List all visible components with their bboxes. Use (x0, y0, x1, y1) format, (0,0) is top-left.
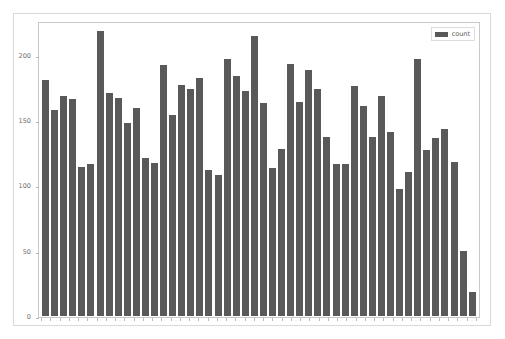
bar (97, 31, 104, 316)
x-axis-tick-mark (161, 318, 162, 321)
bar (305, 70, 312, 316)
bar (233, 76, 240, 316)
y-axis-tick-label: 50 (23, 248, 31, 257)
x-axis-tick-mark (235, 318, 236, 321)
x-axis-tick-mark (383, 318, 384, 321)
y-axis-tick-label: 0 (27, 313, 31, 322)
x-axis-tick-mark (393, 318, 394, 321)
bar (432, 138, 439, 316)
x-axis-tick-mark (420, 318, 421, 321)
bar (42, 80, 49, 317)
bar (278, 149, 285, 316)
x-axis-tick-mark (300, 318, 301, 321)
x-axis-tick-mark (171, 318, 172, 321)
x-axis-tick-mark (41, 318, 42, 321)
bar (78, 167, 85, 316)
legend-swatch-count (435, 32, 448, 37)
x-axis-tick-mark (97, 318, 98, 321)
x-axis-tick-mark (309, 318, 310, 321)
bar (187, 89, 194, 316)
bar (296, 102, 303, 316)
bar (196, 78, 203, 316)
bar (451, 162, 458, 316)
plot-area: 050100150200 count (39, 23, 479, 317)
bar (224, 59, 231, 316)
x-axis-tick-mark (328, 318, 329, 321)
x-axis-tick-mark (78, 318, 79, 321)
bar (160, 65, 167, 316)
bar (378, 96, 385, 316)
bar (251, 36, 258, 316)
bar (369, 137, 376, 316)
y-axis-tick-label: 150 (19, 117, 31, 126)
x-axis-tick-mark (337, 318, 338, 321)
bar (342, 164, 349, 316)
bar (215, 175, 222, 316)
bar (396, 189, 403, 316)
x-axis-tick-mark (346, 318, 347, 321)
bar (441, 129, 448, 316)
bar (124, 123, 131, 316)
bar (333, 164, 340, 316)
y-axis-tick-mark (36, 122, 39, 123)
bar (51, 110, 58, 316)
y-axis-tick-mark (36, 187, 39, 188)
bar (151, 163, 158, 316)
bar (360, 106, 367, 316)
bar (269, 168, 276, 316)
y-axis-tick-label: 200 (19, 52, 31, 61)
bar (60, 96, 67, 316)
x-axis-tick-mark (217, 318, 218, 321)
bar (106, 93, 113, 316)
x-axis-tick-mark (106, 318, 107, 321)
x-axis-tick-mark (245, 318, 246, 321)
bar (169, 115, 176, 316)
x-axis-tick-mark (374, 318, 375, 321)
x-axis-tick-mark (152, 318, 153, 321)
x-axis-tick-mark (402, 318, 403, 321)
x-axis-tick-mark (411, 318, 412, 321)
y-axis-tick-mark (36, 253, 39, 254)
x-axis-tick-mark (448, 318, 449, 321)
x-axis-tick-mark (272, 318, 273, 321)
x-axis-tick-mark (198, 318, 199, 321)
legend-label-count: count (452, 30, 470, 38)
x-axis-tick-mark (134, 318, 135, 321)
bar (423, 150, 430, 316)
bar (323, 137, 330, 316)
x-axis-tick-mark (60, 318, 61, 321)
bar (205, 170, 212, 316)
figure-canvas: 050100150200 count (0, 0, 505, 339)
bar (115, 98, 122, 316)
x-axis-tick-mark (115, 318, 116, 321)
bar (242, 91, 249, 316)
bar-series-count (41, 22, 477, 316)
x-axis-tick-mark (69, 318, 70, 321)
chart-axes: 050100150200 count (38, 22, 480, 318)
x-axis-tick-mark (430, 318, 431, 321)
bar (69, 99, 76, 316)
bar (314, 89, 321, 316)
bar (142, 158, 149, 316)
x-axis-tick-mark (50, 318, 51, 321)
x-axis-tick-mark (282, 318, 283, 321)
y-axis-tick-label: 100 (19, 182, 31, 191)
x-axis-ticks (38, 318, 480, 322)
x-axis-tick-mark (143, 318, 144, 321)
bar (405, 172, 412, 316)
bar (460, 251, 467, 316)
bar (260, 103, 267, 316)
bar (87, 164, 94, 316)
x-axis-tick-mark (439, 318, 440, 321)
x-axis-tick-mark (180, 318, 181, 321)
bar (414, 59, 421, 316)
x-axis-tick-mark (87, 318, 88, 321)
x-axis-tick-mark (189, 318, 190, 321)
x-axis-tick-mark (291, 318, 292, 321)
bar (178, 85, 185, 316)
chart-legend: count (431, 27, 475, 41)
x-axis-tick-mark (226, 318, 227, 321)
x-axis-tick-mark (208, 318, 209, 321)
bar (133, 108, 140, 316)
x-axis-tick-mark (467, 318, 468, 321)
